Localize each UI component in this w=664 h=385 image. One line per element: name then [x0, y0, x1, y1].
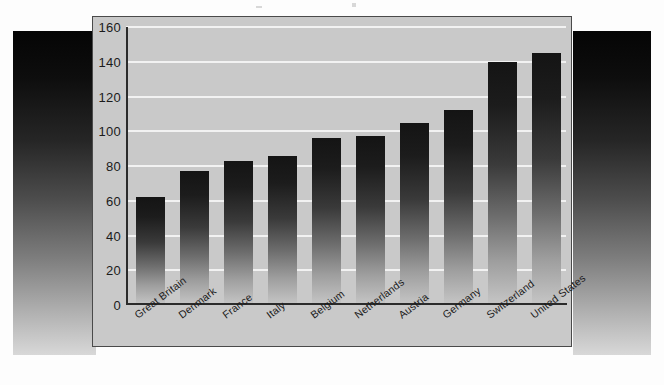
bar — [356, 136, 385, 305]
bar — [312, 138, 341, 305]
y-axis-tick-label: 140 — [98, 54, 121, 69]
bar — [400, 123, 429, 305]
scanned-page: 020406080100120140160 Great BritainDenma… — [0, 0, 664, 385]
bar — [532, 53, 561, 305]
bar-series — [126, 27, 566, 305]
y-axis-tick-label: 0 — [113, 298, 121, 313]
plot-area — [126, 27, 566, 305]
y-axis-tick-label: 100 — [98, 124, 121, 139]
left-gradient-slab — [13, 31, 96, 355]
y-axis-line — [126, 27, 128, 305]
bar — [224, 161, 253, 305]
x-axis-category-labels: Great BritainDenmarkFranceItalyBelgiumNe… — [126, 307, 567, 363]
y-axis-tick-label: 20 — [106, 263, 121, 278]
bar — [268, 156, 297, 305]
bar — [488, 62, 517, 305]
scan-speck — [352, 3, 356, 7]
chart-panel: 020406080100120140160 Great BritainDenma… — [92, 16, 572, 347]
y-axis-tick-label: 60 — [106, 193, 121, 208]
bar — [444, 110, 473, 305]
y-axis-tick-label: 80 — [106, 159, 121, 174]
y-axis-tick-label: 40 — [106, 228, 121, 243]
y-axis-tick-labels: 020406080100120140160 — [93, 27, 121, 305]
y-axis-tick-label: 120 — [98, 89, 121, 104]
y-axis-tick-label: 160 — [98, 20, 121, 35]
scan-speck — [256, 6, 262, 8]
right-gradient-slab — [573, 31, 651, 355]
